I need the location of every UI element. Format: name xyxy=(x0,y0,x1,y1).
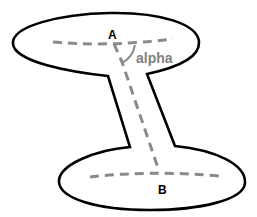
bottom-dashed-line xyxy=(90,173,220,177)
diagram-canvas xyxy=(0,0,257,217)
point-a-label: A xyxy=(108,28,117,42)
point-b-label: B xyxy=(158,183,167,197)
angle-label: alpha xyxy=(136,50,173,66)
angle-arc-icon xyxy=(122,45,135,63)
